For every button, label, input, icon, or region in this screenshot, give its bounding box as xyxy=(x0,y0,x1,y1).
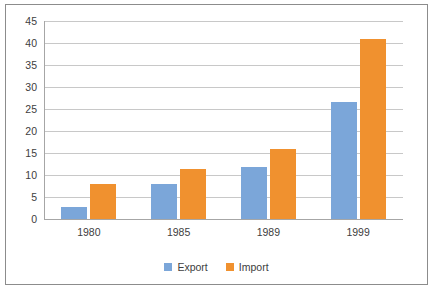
bar-import-1980[interactable] xyxy=(90,184,116,219)
y-axis-tick-label: 30 xyxy=(25,81,37,93)
bar-export-1989[interactable] xyxy=(241,167,267,219)
y-axis-tick-labels: 051015202530354045 xyxy=(6,21,37,219)
y-axis-tick-label: 10 xyxy=(25,169,37,181)
y-axis-tick-label: 5 xyxy=(31,191,37,203)
bar-group xyxy=(61,21,116,219)
bar-import-1989[interactable] xyxy=(270,149,296,219)
chart-frame: 051015202530354045 1980198519891999 Expo… xyxy=(5,4,428,285)
y-axis-tick-label: 45 xyxy=(25,15,37,27)
legend-item-export[interactable]: Export xyxy=(164,261,207,273)
bar-group xyxy=(331,21,386,219)
y-axis-tick-label: 20 xyxy=(25,125,37,137)
y-axis-tick-label: 35 xyxy=(25,59,37,71)
y-axis-tick-label: 0 xyxy=(31,213,37,225)
bar-group xyxy=(151,21,206,219)
legend-label: Export xyxy=(177,261,207,273)
gridline xyxy=(44,219,403,220)
legend-swatch-export-icon xyxy=(164,263,172,271)
x-axis-tick-labels: 1980198519891999 xyxy=(44,226,403,242)
bar-export-1999[interactable] xyxy=(331,102,357,219)
bar-import-1985[interactable] xyxy=(180,169,206,219)
legend-label: Import xyxy=(239,261,269,273)
bar-export-1985[interactable] xyxy=(151,184,177,219)
y-axis-tick-label: 15 xyxy=(25,147,37,159)
y-axis-tick-label: 25 xyxy=(25,103,37,115)
y-axis-tick-label: 40 xyxy=(25,37,37,49)
legend-swatch-import-icon xyxy=(226,263,234,271)
x-axis-tick-label-1999: 1999 xyxy=(346,226,369,238)
x-axis-tick-label-1985: 1985 xyxy=(167,226,190,238)
bar-group xyxy=(241,21,296,219)
x-axis-tick-label-1980: 1980 xyxy=(77,226,100,238)
legend-item-import[interactable]: Import xyxy=(226,261,269,273)
x-axis-tick-label-1989: 1989 xyxy=(257,226,280,238)
bar-import-1999[interactable] xyxy=(360,39,386,219)
bars-layer xyxy=(44,21,403,219)
chart-legend: ExportImport xyxy=(6,261,427,273)
bar-export-1980[interactable] xyxy=(61,207,87,219)
